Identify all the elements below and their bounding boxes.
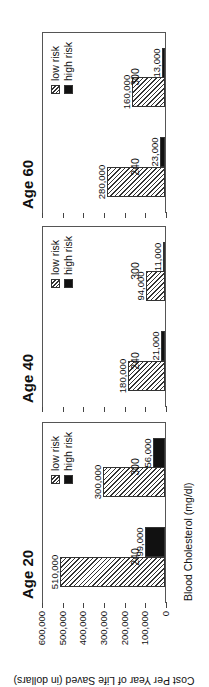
y-axis-tick: [104, 213, 105, 218]
x-category-label: 240: [129, 341, 141, 381]
bar-value-label: 510,000: [50, 547, 60, 597]
y-axis-tick: [63, 603, 64, 608]
legend: low riskhigh risk: [49, 236, 75, 288]
y-axis-tick: [42, 603, 43, 608]
y-axis-tick: [42, 213, 43, 218]
y-axis-tick: [125, 407, 126, 412]
y-axis-tick: [166, 213, 167, 218]
hatched-swatch-icon: [51, 279, 60, 288]
y-axis-tick: [104, 407, 105, 412]
legend-label: low risk: [49, 240, 62, 275]
panel-title: Age 40: [19, 354, 36, 403]
legend-label: high risk: [62, 236, 75, 275]
y-tick-label: 400,000: [78, 611, 88, 659]
bar-high-risk-300: [163, 242, 165, 272]
bar-value-label: 11,000: [153, 232, 163, 282]
bar-value-label: 280,000: [97, 157, 107, 207]
legend-item: high risk: [62, 236, 75, 288]
chart-panel-age-60: Age 60low riskhigh risk280,00023,000160,…: [42, 32, 166, 213]
y-axis-title: Cost Per Year of Life Saved (in dollars): [0, 675, 209, 687]
x-axis-title: Blood Cholesterol (mg/dl): [182, 483, 194, 601]
bar-high-risk-300: [153, 438, 165, 468]
y-tick-label: 300,000: [99, 611, 109, 659]
y-axis-tick: [83, 213, 84, 218]
bar-value-label: 180,000: [118, 351, 128, 401]
bar-value-label: 13,000: [152, 38, 162, 88]
solid-swatch-icon: [64, 279, 73, 288]
y-axis-tick: [83, 603, 84, 608]
hatched-swatch-icon: [51, 475, 60, 484]
y-tick-label: 500,000: [58, 611, 68, 659]
panel-title: Age 20: [19, 550, 36, 599]
bar-high-risk-300: [162, 48, 165, 78]
y-axis-tick: [145, 213, 146, 218]
bar-high-risk-240: [145, 527, 165, 557]
y-axis-tick: [42, 407, 43, 412]
legend-label: low risk: [49, 46, 62, 81]
y-axis-tick: [63, 213, 64, 218]
legend: low riskhigh risk: [49, 42, 75, 94]
x-category-label: 300: [129, 57, 141, 97]
x-category-label: 300: [129, 251, 141, 291]
legend-label: low risk: [49, 436, 62, 471]
legend-item: high risk: [62, 42, 75, 94]
legend-label: high risk: [62, 432, 75, 471]
x-category-label: 300: [129, 447, 141, 487]
bar-value-label: 300,000: [93, 457, 103, 507]
solid-swatch-icon: [64, 475, 73, 484]
y-tick-label: 100,000: [140, 611, 150, 659]
hatched-swatch-icon: [51, 85, 60, 94]
legend-label: high risk: [62, 42, 75, 81]
y-axis-tick: [125, 603, 126, 608]
bar-value-label: 23,000: [150, 127, 160, 177]
y-axis-tick: [166, 407, 167, 412]
legend-item: high risk: [62, 432, 75, 484]
chart-panel-age-20: Age 20low riskhigh risk510,00099,000300,…: [42, 422, 166, 603]
legend: low riskhigh risk: [49, 432, 75, 484]
x-category-label: 240: [129, 537, 141, 577]
y-axis-tick: [125, 213, 126, 218]
y-tick-label: 0: [161, 611, 171, 659]
bar-value-label: 56,000: [143, 428, 153, 478]
bar-low-risk-240: [60, 557, 165, 587]
legend-item: low risk: [49, 42, 62, 94]
y-axis-tick: [104, 603, 105, 608]
chart-panel-age-40: Age 40low riskhigh risk180,00021,00094,0…: [42, 226, 166, 407]
y-tick-label: 600,000: [37, 611, 47, 659]
y-axis-tick: [83, 407, 84, 412]
y-axis-tick: [63, 407, 64, 412]
x-category-label: 240: [129, 147, 141, 187]
bar-high-risk-240: [160, 137, 165, 167]
panel-title: Age 60: [19, 160, 36, 209]
y-axis-tick: [166, 603, 167, 608]
solid-swatch-icon: [64, 85, 73, 94]
bar-high-risk-240: [161, 331, 165, 361]
chart-stage: Cost Per Year of Life Saved (in dollars)…: [0, 0, 209, 687]
y-axis-tick: [145, 603, 146, 608]
legend-item: low risk: [49, 236, 62, 288]
y-axis-tick: [145, 407, 146, 412]
y-tick-label: 200,000: [120, 611, 130, 659]
legend-item: low risk: [49, 432, 62, 484]
bar-value-label: 21,000: [151, 321, 161, 371]
